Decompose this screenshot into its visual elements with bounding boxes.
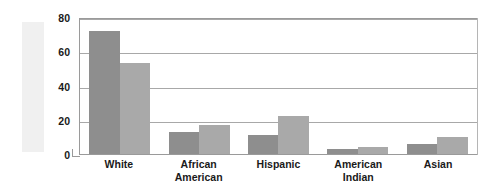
bar [437,137,468,154]
x-axis-tick-label: Hispanic [239,158,319,171]
bar-group [248,19,309,154]
x-axis-tick-label: White [79,158,159,171]
bar-group [407,19,468,154]
bars-layer [80,19,477,154]
x-axis-tick-labels: WhiteAfricanAmericanHispanicAmericanIndi… [79,158,478,196]
bar [169,132,200,154]
x-axis-tick-label: Asian [398,158,478,171]
bar [358,147,389,154]
y-axis-tick-label: 20 [48,116,70,127]
y-axis-title: Percent [22,0,44,44]
right-margin-rule [477,18,478,155]
bar-group [327,19,388,154]
bar [248,135,279,154]
y-axis-tick-label: 0 [48,150,70,161]
bar [327,149,358,154]
y-axis-tick-label: 80 [48,13,70,24]
bar [278,116,309,154]
y-axis-tick-label: 60 [48,47,70,58]
bar [120,63,151,154]
bar [407,144,438,154]
y-axis-tick-label: 40 [48,82,70,93]
y-axis-tick-labels: 806040200 [48,0,70,196]
bar [199,125,230,154]
plot-area [79,18,478,155]
x-axis-tick-label: AfricanAmerican [159,158,239,184]
bar-group [89,19,150,154]
bar [89,31,120,154]
bar-chart-figure: Percent 806040200 WhiteAfricanAmericanHi… [0,0,501,196]
bar-group [169,19,230,154]
x-axis-tick-label: AmericanIndian [318,158,398,184]
